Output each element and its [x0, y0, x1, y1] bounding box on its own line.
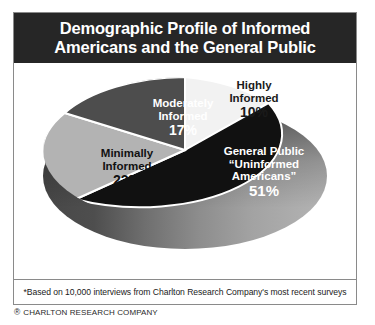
- page-title-line-1: Demographic Profile of Informed: [60, 19, 311, 38]
- pie-value-general-public: 51%: [203, 185, 325, 198]
- pie-value-moderately-informed: 17%: [131, 124, 235, 137]
- pie-label-general-public: General Public “Uninformed Americans” 51…: [203, 145, 325, 197]
- pie-value-minimally-informed: 22%: [79, 174, 175, 187]
- pie-label-moderately-informed: Moderately Informed 17%: [131, 97, 235, 137]
- pie-label-general-public-line2: “Uninformed: [203, 158, 325, 171]
- pie-label-moderately-informed-line1: Moderately: [131, 97, 235, 110]
- chart-frame: Demographic Profile of Informed American…: [13, 12, 357, 305]
- pie-label-minimally-informed: Minimally Informed 22%: [79, 147, 175, 187]
- chart-title-bar: Demographic Profile of Informed American…: [14, 13, 356, 63]
- pie-chart-plot-area: Highly Informed 10% Moderately Informed …: [14, 63, 356, 271]
- registered-trademark-icon: ®: [14, 308, 20, 317]
- pie-label-minimally-informed-line1: Minimally: [79, 147, 175, 160]
- credit-text: CHARLTON RESEARCH COMPANY: [23, 308, 158, 317]
- pie-label-highly-informed-line1: Highly: [211, 79, 297, 92]
- footnote-text: *Based on 10,000 interviews from Charlto…: [24, 287, 347, 297]
- page-title-line-2: Americans and the General Public: [54, 38, 315, 57]
- footnote: *Based on 10,000 interviews from Charlto…: [14, 280, 356, 304]
- pie-label-general-public-line3: Americans”: [203, 170, 325, 183]
- credit-line: ® CHARLTON RESEARCH COMPANY: [14, 308, 158, 317]
- pie-label-general-public-line1: General Public: [203, 145, 325, 158]
- pie-chart: Highly Informed 10% Moderately Informed …: [35, 69, 335, 265]
